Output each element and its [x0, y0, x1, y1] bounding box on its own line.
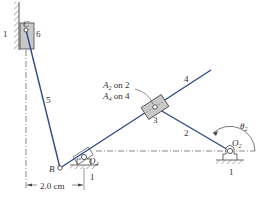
- label-o4: O4: [89, 156, 99, 167]
- label-link-4: 4: [184, 74, 189, 84]
- label-b: B: [49, 164, 55, 174]
- link-4: [60, 70, 211, 168]
- label-theta2: θ2: [240, 121, 247, 132]
- arrowhead-icon: [213, 131, 218, 136]
- label-ground-left: 1: [3, 29, 8, 39]
- label-o2: O2: [232, 138, 242, 149]
- mechanism-diagram: 1 C 6 5 B O4 1 2.0 cm A2 on 2 A4 on 4 4 …: [0, 0, 264, 197]
- label-a2-on-2: A2 on 2: [102, 80, 130, 91]
- label-dimension: 2.0 cm: [40, 181, 65, 191]
- pin-b: [58, 166, 62, 170]
- label-link-5: 5: [46, 95, 51, 105]
- label-ground-o4: 1: [90, 172, 95, 182]
- pin-a: [153, 105, 157, 109]
- label-a4-on-4: A4 on 4: [102, 91, 130, 102]
- label-link-2: 2: [184, 128, 189, 138]
- label-block-3: 3: [153, 115, 158, 125]
- label-c: C: [23, 19, 30, 29]
- label-6: 6: [36, 29, 41, 39]
- link-5: [26, 30, 60, 168]
- label-ground-o2: 1: [229, 167, 234, 177]
- ground-wall-left: [14, 2, 19, 50]
